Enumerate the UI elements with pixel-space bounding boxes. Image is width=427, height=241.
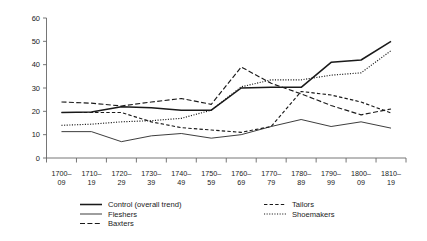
x-tick-label: 19 [387,178,395,187]
legend-label-fleshers: Fleshers [108,210,137,219]
chart-figure: 0102030405060 1700–091710–191720–291730–… [0,0,427,241]
x-tick-label: 19 [87,178,95,187]
x-tick-label: 1760– [231,169,251,178]
series-lines [61,41,391,141]
legend-label-shoemakers: Shoemakers [292,210,335,219]
x-tick-label: 59 [207,178,215,187]
x-tick-label: 1800– [351,169,371,178]
x-tick-label: 1750– [201,169,221,178]
x-tick-label: 09 [57,178,65,187]
x-tick-label: 49 [177,178,185,187]
x-tick-label: 1780– [291,169,311,178]
y-tick-label: 20 [32,107,40,116]
x-tick-label: 1730– [141,169,161,178]
x-tick-label: 1700– [51,169,71,178]
x-axis: 1700–091710–191720–291730–391740–491750–… [47,158,407,187]
y-tick-label: 40 [32,60,40,69]
series-line-baxters [61,67,391,115]
x-tick-label: 89 [297,178,305,187]
x-tick-label: 39 [147,178,155,187]
x-tick-label: 1710– [81,169,101,178]
x-tick-label: 1790– [321,169,341,178]
x-tick-label: 79 [267,178,275,187]
y-tick-label: 60 [32,14,40,23]
legend-label-baxters: Baxters [108,219,134,228]
series-line-tailors [61,92,391,133]
x-tick-label: 1770– [261,169,281,178]
series-line-control-overall-trend [61,41,391,112]
legend-label-control-overall-trend: Control (overall trend) [108,200,182,209]
x-tick-label: 1810– [381,169,401,178]
legend-label-tailors: Tailors [292,200,314,209]
x-tick-label: 09 [357,178,365,187]
y-axis: 0102030405060 [32,14,47,163]
y-tick-label: 50 [32,37,40,46]
y-tick-label: 30 [32,84,40,93]
line-chart-canvas: 0102030405060 1700–091710–191720–291730–… [0,0,427,241]
x-tick-label: 69 [237,178,245,187]
chart-legend: Control (overall trend)FleshersBaxtersTa… [80,200,335,228]
y-tick-label: 0 [36,154,40,163]
y-tick-label: 10 [32,130,40,139]
x-tick-label: 29 [117,178,125,187]
x-tick-label: 1740– [171,169,191,178]
x-tick-label: 1720– [111,169,131,178]
x-tick-label: 99 [327,178,335,187]
